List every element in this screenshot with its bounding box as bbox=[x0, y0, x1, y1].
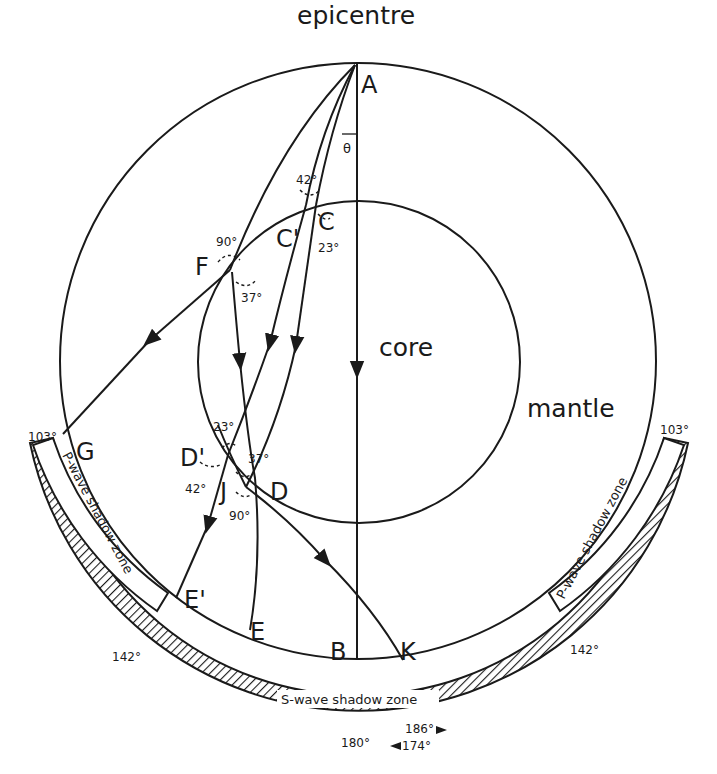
point-K: K bbox=[400, 638, 417, 666]
point-C-prime: C' bbox=[276, 225, 299, 253]
degree-174: 174° bbox=[402, 739, 431, 753]
point-J: J bbox=[218, 478, 227, 506]
degree-103-right: 103° bbox=[660, 423, 689, 437]
seismic-wave-diagram: θ epicentre bbox=[0, 0, 717, 774]
angle-F-refracted: 37° bbox=[241, 291, 262, 305]
degree-103-left: 103° bbox=[28, 430, 57, 444]
arrow-right-icon bbox=[436, 726, 447, 734]
degree-142-left: 142° bbox=[112, 650, 141, 664]
angle-F-incident: 90° bbox=[216, 235, 237, 249]
angle-Dprime-outer: 42° bbox=[185, 482, 206, 496]
point-A: A bbox=[361, 71, 378, 99]
degree-142-right: 142° bbox=[570, 643, 599, 657]
point-C: C bbox=[318, 208, 335, 236]
core-circle bbox=[198, 201, 520, 523]
point-E-prime: E' bbox=[184, 586, 206, 614]
angle-C-refracted: 23° bbox=[318, 241, 339, 255]
angle-D-outer: 90° bbox=[229, 509, 250, 523]
angle-D-inner: 37° bbox=[248, 452, 269, 466]
degree-186: 186° bbox=[405, 722, 434, 736]
mantle-label: mantle bbox=[527, 394, 615, 423]
angle-Dprime-inner: 23° bbox=[213, 420, 234, 434]
theta-angle: θ bbox=[342, 134, 357, 156]
svg-text:θ: θ bbox=[343, 141, 351, 156]
ray-A-C-D-K bbox=[246, 65, 403, 660]
ray-F-J-E bbox=[232, 272, 258, 630]
point-D-prime: D' bbox=[180, 444, 205, 472]
point-B: B bbox=[330, 638, 346, 666]
degree-180: 180° bbox=[341, 736, 370, 750]
angle-C-incident: 42° bbox=[296, 173, 317, 187]
ray-A-Cprime-Dprime-Eprime bbox=[176, 65, 355, 598]
core-label: core bbox=[379, 333, 433, 362]
epicentre-label: epicentre bbox=[297, 1, 415, 30]
ray-A-F-G bbox=[63, 65, 355, 434]
arrow-left-icon bbox=[390, 742, 401, 750]
point-D: D bbox=[270, 478, 288, 506]
point-F: F bbox=[195, 253, 209, 281]
s-wave-shadow-zone-label: S-wave shadow zone bbox=[281, 692, 417, 707]
point-E: E bbox=[250, 618, 265, 646]
